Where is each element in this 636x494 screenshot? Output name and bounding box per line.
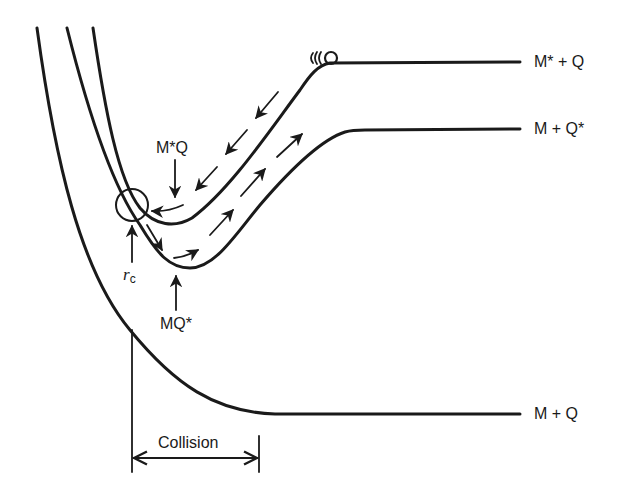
motion-lines-icon bbox=[319, 52, 321, 64]
arrow-up-middle bbox=[277, 134, 302, 157]
arrow-up-middle bbox=[174, 250, 198, 258]
label-upper-well: M*Q bbox=[156, 140, 188, 156]
label-collision: Collision bbox=[158, 435, 218, 451]
crossing-radius-symbol: r bbox=[123, 265, 130, 284]
label-crossing-radius: rc bbox=[123, 266, 136, 285]
arrow-down-upper bbox=[256, 92, 278, 118]
arrow-into-crossing bbox=[152, 205, 183, 211]
arrow-down-upper bbox=[196, 167, 217, 190]
motion-lines-icon bbox=[311, 53, 313, 63]
excited-quencher-curve bbox=[67, 28, 520, 268]
ground-state-curve bbox=[37, 28, 520, 414]
crossing-radius-subscript: c bbox=[130, 272, 136, 286]
arrow-up-middle bbox=[241, 169, 265, 196]
label-ground-state: M + Q bbox=[534, 406, 578, 422]
arrow-down-upper bbox=[226, 130, 247, 154]
label-excited-donor: M* + Q bbox=[534, 54, 584, 70]
arrow-up-middle bbox=[210, 210, 233, 235]
label-middle-well: MQ* bbox=[160, 316, 192, 332]
label-excited-quencher: M + Q* bbox=[534, 121, 584, 137]
motion-lines-icon bbox=[315, 52, 317, 64]
excited-donor-curve bbox=[93, 28, 520, 224]
